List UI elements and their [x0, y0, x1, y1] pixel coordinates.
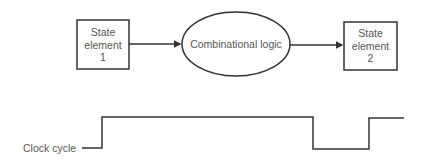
state-element-2: State element 2	[344, 22, 397, 70]
diagram-canvas: State element 1 Combinational logic Stat…	[0, 0, 423, 164]
combinational-logic: Combinational logic	[182, 12, 290, 76]
state-element-2-line-1: State	[358, 27, 383, 39]
state-element-1: State element 1	[77, 20, 129, 69]
state-element-2-line-3: 2	[368, 52, 374, 64]
state-element-1-line-1: State	[91, 26, 116, 38]
clock-signal: Clock cycle	[23, 117, 404, 154]
clock-cycle-label: Clock cycle	[23, 142, 76, 154]
state-element-1-line-2: element	[84, 39, 121, 51]
clock-waveform	[82, 117, 404, 149]
state-element-1-line-3: 1	[100, 51, 106, 63]
state-element-2-line-2: element	[352, 40, 389, 52]
combinational-logic-label: Combinational logic	[190, 38, 282, 50]
